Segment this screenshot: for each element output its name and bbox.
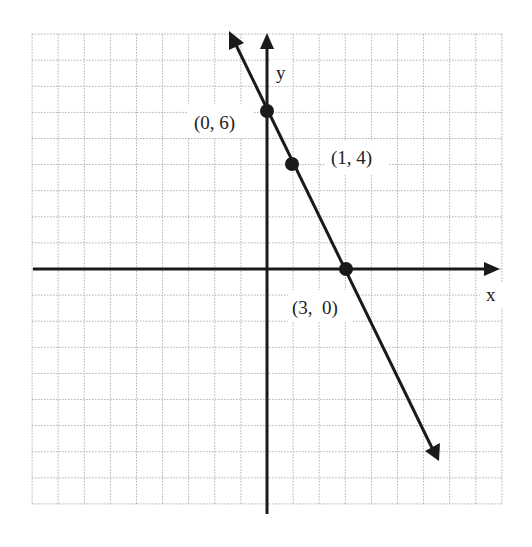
x-axis-arrow-icon xyxy=(484,262,500,276)
point-3-0 xyxy=(339,262,353,276)
point-0-6 xyxy=(260,104,274,118)
label-point-1-4: (1, 4) xyxy=(331,147,372,169)
x-axis-label: x xyxy=(486,284,496,305)
label-point-3-0: (3, 0) xyxy=(292,297,338,319)
y-axis-label: y xyxy=(276,62,286,83)
plotted-line xyxy=(229,31,440,461)
graph: (0, 6) (1, 4) (3, 0) y x xyxy=(0,0,532,547)
label-point-0-6: (0, 6) xyxy=(194,112,235,134)
point-1-4 xyxy=(285,157,299,171)
y-axis-arrow-icon xyxy=(260,33,274,49)
